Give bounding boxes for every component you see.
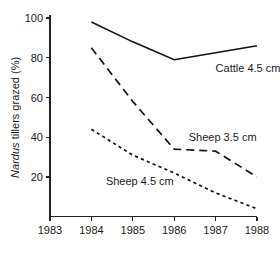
y-axis: 20406080100 xyxy=(25,12,50,183)
y-tick-label: 40 xyxy=(31,131,43,143)
x-axis: 198319841985198619871988 xyxy=(38,217,269,236)
y-axis-title-rest: tillers grazed (%) xyxy=(9,57,21,143)
y-axis-title-genus: Nardus xyxy=(9,142,21,178)
x-tick-label: 1987 xyxy=(203,224,227,236)
chart-figure: 20406080100 198319841985198619871988 Cat… xyxy=(0,0,280,258)
y-axis-title-text: Nardus tillers grazed (%) xyxy=(9,57,21,178)
series-line-cattle-4-5-cm xyxy=(91,22,257,60)
annotation-sheep-3-5-cm: Sheep 3.5 cm xyxy=(189,131,257,143)
x-tick-label: 1986 xyxy=(162,224,186,236)
y-tick-label: 80 xyxy=(31,52,43,64)
x-tick-label: 1985 xyxy=(121,224,145,236)
y-tick-label: 100 xyxy=(25,12,43,24)
y-tick-label: 60 xyxy=(31,92,43,104)
x-tick-label: 1983 xyxy=(38,224,62,236)
annotation-sheep-4-5-cm: Sheep 4.5 cm xyxy=(106,175,174,187)
line-chart: 20406080100 198319841985198619871988 Cat… xyxy=(0,0,280,258)
series-annotations: Cattle 4.5 cmSheep 3.5 cmSheep 4.5 cm xyxy=(106,62,280,187)
x-tick-label: 1984 xyxy=(79,224,103,236)
annotation-cattle-4-5-cm: Cattle 4.5 cm xyxy=(216,62,280,74)
y-axis-title: Nardus tillers grazed (%) xyxy=(9,57,21,178)
y-tick-label: 20 xyxy=(31,171,43,183)
x-tick-label: 1988 xyxy=(245,224,269,236)
